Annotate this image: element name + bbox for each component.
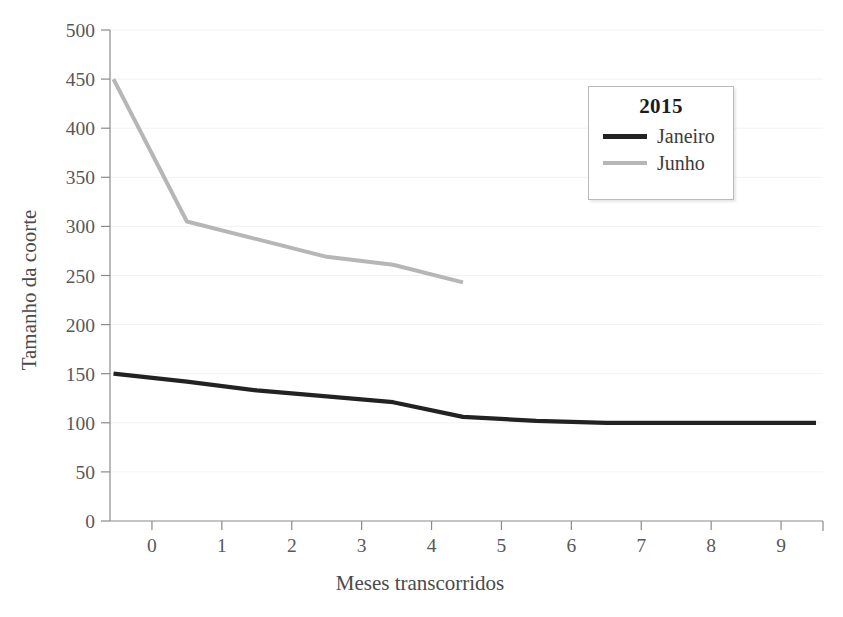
- x-tick-label: 1: [217, 535, 227, 556]
- y-tick-label: 500: [66, 20, 95, 41]
- legend-title: 2015: [589, 94, 733, 119]
- y-tick-label: 0: [85, 511, 95, 532]
- y-tick-label: 450: [66, 69, 95, 90]
- legend-line-swatch-janeiro: [603, 134, 647, 139]
- x-tick-label: 9: [776, 535, 786, 556]
- legend-label-junho: Junho: [657, 153, 705, 173]
- x-axis-title: Meses transcorridos: [336, 571, 505, 595]
- legend-entry-janeiro: Janeiro: [589, 126, 733, 146]
- x-tick-label: 2: [287, 535, 297, 556]
- legend-line-swatch-junho: [603, 161, 647, 165]
- y-tick-label: 200: [66, 315, 95, 336]
- x-tick-label: 4: [427, 535, 437, 556]
- legend-label-janeiro: Janeiro: [657, 126, 715, 146]
- y-tick-label: 350: [66, 167, 95, 188]
- y-tick-label: 250: [66, 266, 95, 287]
- x-tick-label: 7: [636, 535, 646, 556]
- x-tick-label: 5: [497, 535, 507, 556]
- y-tick-label: 300: [66, 216, 95, 237]
- y-tick-label: 400: [66, 118, 95, 139]
- y-axis-title: Tamanho da coorte: [17, 210, 41, 371]
- x-tick-label: 3: [357, 535, 367, 556]
- y-tick-label: 50: [76, 462, 96, 483]
- x-tick-label: 0: [147, 535, 157, 556]
- x-tick-group: 0123456789: [147, 521, 786, 556]
- x-tick-label: 6: [566, 535, 576, 556]
- series-line-janeiro: [114, 374, 817, 423]
- y-tick-group: 050100150200250300350400450500: [66, 20, 110, 532]
- series-line-junho: [114, 79, 464, 282]
- y-tick-label: 150: [66, 364, 95, 385]
- x-tick-label: 8: [706, 535, 716, 556]
- line-chart-figure: 050100150200250300350400450500 012345678…: [0, 0, 843, 617]
- chart-legend: 2015 Janeiro Junho: [588, 86, 734, 200]
- y-tick-label: 100: [66, 413, 95, 434]
- legend-entry-junho: Junho: [589, 153, 733, 173]
